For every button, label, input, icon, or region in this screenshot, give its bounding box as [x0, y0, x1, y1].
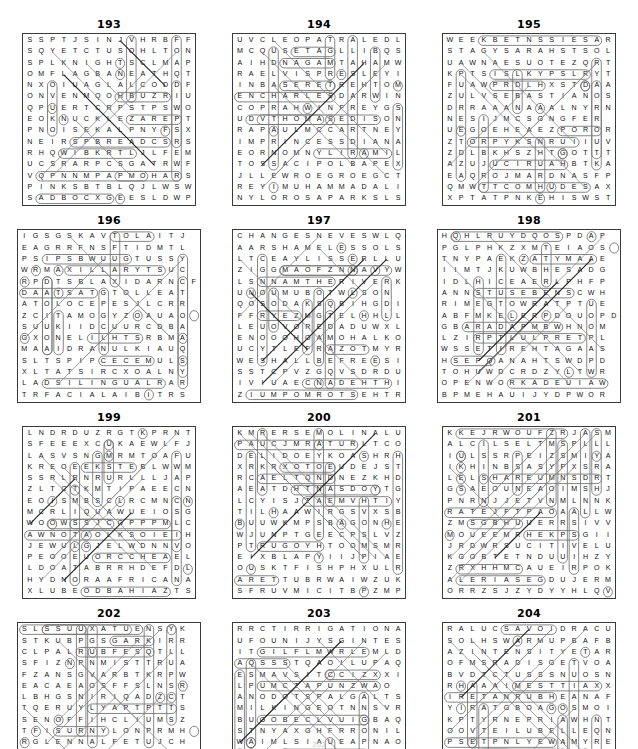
- grid-cell: S: [347, 507, 358, 518]
- grid-cell: Z: [19, 311, 30, 322]
- grid-cell: G: [268, 265, 279, 276]
- grid-row: COPRAHWINFREYGS: [234, 103, 403, 114]
- grid-cell: U: [92, 507, 103, 518]
- grid-cell: M: [98, 658, 109, 669]
- grid-cell: L: [165, 647, 176, 658]
- grid-cell: N: [602, 670, 613, 681]
- grid-cell: C: [336, 670, 347, 681]
- grid-cell: A: [370, 182, 381, 193]
- grid-cell: K: [41, 636, 52, 647]
- grid-cell: I: [268, 182, 279, 193]
- grid-row: PSIPSBWUUGTUSSY: [19, 254, 200, 265]
- grid-cell: E: [47, 439, 58, 450]
- grid-cell: C: [177, 265, 188, 276]
- grid-cell: C: [171, 484, 182, 495]
- grid-cell: Q: [325, 299, 336, 310]
- grid-cell: T: [302, 277, 313, 288]
- grid-cell: M: [302, 243, 313, 254]
- grid-cell: L: [512, 726, 523, 737]
- grid-cell: I: [69, 148, 80, 159]
- grid-cell: R: [257, 148, 268, 159]
- grid-cell: K: [53, 322, 64, 333]
- grid-cell: V: [325, 715, 336, 726]
- grid-cell: A: [347, 91, 358, 102]
- grid-cell: E: [149, 563, 160, 574]
- grid-cell: M: [160, 58, 171, 69]
- grid-cell: K: [47, 114, 58, 125]
- grid-cell: B: [336, 299, 347, 310]
- grid-cell: C: [489, 624, 500, 635]
- grid-cell: E: [69, 586, 80, 597]
- grid-cell: P: [53, 254, 64, 265]
- grid-cell: A: [53, 647, 64, 658]
- grid-cell: E: [81, 462, 92, 473]
- grid-cell: I: [602, 703, 613, 714]
- grid-cell: I: [569, 552, 580, 563]
- grid-cell: T: [478, 670, 489, 681]
- grid-cell: V: [336, 367, 347, 378]
- grid-cell: L: [370, 333, 381, 344]
- grid-cell: O: [313, 462, 324, 473]
- grid-cell: L: [512, 69, 523, 80]
- grid-cell: F: [456, 658, 467, 669]
- grid-cell: Q: [580, 58, 591, 69]
- grid-cell: S: [392, 692, 403, 703]
- grid-cell: K: [325, 451, 336, 462]
- grid-cell: Q: [591, 726, 602, 737]
- grid-cell: H: [359, 496, 370, 507]
- grid-cell: L: [115, 496, 126, 507]
- grid-cell: A: [313, 114, 324, 125]
- grid-cell: V: [381, 703, 392, 714]
- grid-row: AZINTENSITYETAR: [444, 647, 613, 658]
- grid-cell: [188, 356, 199, 367]
- grid-row: ABFMKELERPDOUOPD: [439, 311, 620, 322]
- grid-cell: A: [313, 439, 324, 450]
- grid-cell: G: [359, 715, 370, 726]
- grid-cell: E: [268, 428, 279, 439]
- letter-grid: UVCLEOPATRALEDLMCQUSETAGLLIBQSAIHDNAGAMT…: [234, 35, 403, 204]
- grid-cell: C: [501, 182, 512, 193]
- grid-cell: M: [501, 114, 512, 125]
- grid-cell: I: [246, 58, 257, 69]
- grid-cell: K: [523, 69, 534, 80]
- puzzle-193: 193SSPTJSINJVHRBFFSQYETCTUSOHLTONSPLKNIG…: [10, 18, 208, 206]
- grid-cell: U: [495, 231, 506, 242]
- grid-cell: H: [370, 451, 381, 462]
- grid-cell: S: [557, 451, 568, 462]
- grid-cell: E: [69, 439, 80, 450]
- grid-cell: X: [381, 670, 392, 681]
- grid-row: AZUJUCIRUAHBTKA: [444, 159, 613, 170]
- grid-cell: M: [529, 243, 540, 254]
- grid-cell: J: [501, 586, 512, 597]
- grid-cell: E: [325, 277, 336, 288]
- grid-cell: I: [381, 91, 392, 102]
- grid-cell: F: [109, 681, 120, 692]
- grid-cell: R: [597, 367, 608, 378]
- grid-cell: T: [47, 484, 58, 495]
- grid-cell: N: [574, 322, 585, 333]
- grid-cell: T: [381, 484, 392, 495]
- grid-cell: A: [557, 507, 568, 518]
- grid-cell: N: [154, 681, 165, 692]
- grid-cell: E: [546, 563, 557, 574]
- grid-cell: D: [279, 451, 290, 462]
- grid-cell: I: [109, 658, 120, 669]
- grid-cell: R: [602, 35, 613, 46]
- grid-cell: S: [171, 125, 182, 136]
- grid-row: ZULVSEBASTIANOS: [444, 91, 613, 102]
- grid-cell: T: [81, 103, 92, 114]
- grid-cell: T: [370, 80, 381, 91]
- grid-cell: A: [86, 344, 97, 355]
- grid-cell: T: [291, 658, 302, 669]
- grid-cell: M: [529, 322, 540, 333]
- puzzle-number-label: 194: [307, 18, 331, 31]
- grid-cell: X: [182, 125, 193, 136]
- grid-cell: W: [86, 254, 97, 265]
- grid-cell: M: [19, 344, 30, 355]
- grid-cell: E: [461, 356, 472, 367]
- grid-cell: E: [19, 243, 30, 254]
- grid-cell: N: [359, 703, 370, 714]
- grid-cell: T: [540, 254, 551, 265]
- grid-cell: R: [234, 182, 245, 193]
- grid-cell: A: [347, 451, 358, 462]
